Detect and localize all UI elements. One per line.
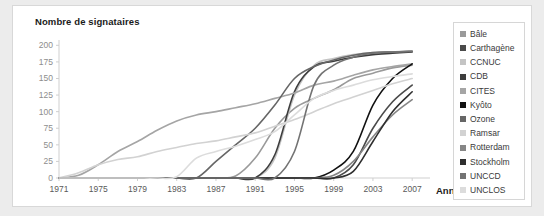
legend-item[interactable]: Rotterdam [460,141,524,155]
y-axis: 0255075100125150175200 [39,40,59,183]
x-tick-label: 1983 [167,184,186,194]
y-tick-label: 25 [44,156,54,166]
x-tick-label: 1979 [128,184,147,194]
x-axis: 1971197519791983198719911995199920032007 [50,178,430,194]
y-tick-label: 200 [39,40,53,50]
y-tick-label: 75 [44,123,54,133]
y-tick-label: 0 [48,173,53,183]
legend-item[interactable]: CDB [460,70,524,84]
legend-swatch-icon [460,45,466,51]
legend-item-label: Rotterdam [470,143,510,152]
legend-item[interactable]: Ozone [460,112,524,126]
y-tick-label: 100 [39,107,53,117]
legend-item-label: CCNUC [470,58,501,67]
x-tick-label: 2007 [403,184,422,194]
legend-item[interactable]: Ramsar [460,126,524,140]
legend-swatch-icon [460,102,466,108]
legend-item[interactable]: CCNUC [460,55,524,69]
x-tick-label: 1995 [285,184,304,194]
legend-swatch-icon [460,74,466,80]
legend-swatch-icon [460,173,466,179]
legend-item[interactable]: Kyôto [460,98,524,112]
y-tick-label: 150 [39,73,53,83]
legend-item-label: CDB [470,72,488,81]
legend-item[interactable]: UNCCD [460,169,524,183]
series-line [59,92,412,179]
y-tick-label: 175 [39,57,53,67]
legend-swatch-icon [460,59,466,65]
legend-swatch-icon [460,116,466,122]
legend-item-label: UNCLOS [470,186,505,195]
legend-item-label: CITES [470,87,495,96]
legend-item-label: Ozone [470,115,495,124]
chart-legend: BâleCarthagèneCCNUCCDBCITESKyôtoOzoneRam… [453,22,525,200]
legend-item-label: Kyôto [470,101,492,110]
legend-item[interactable]: Carthagène [460,41,524,55]
legend-item-label: UNCCD [470,172,501,181]
legend-swatch-icon [460,130,466,136]
data-series-group [59,51,412,180]
legend-item-label: Bâle [470,30,487,39]
legend-item-label: Stockholm [470,158,510,167]
y-tick-label: 125 [39,90,53,100]
x-tick-label: 1975 [89,184,108,194]
legend-item-label: Ramsar [470,129,500,138]
y-tick-label: 50 [44,140,54,150]
legend-swatch-icon [460,187,466,193]
x-tick-label: 1987 [207,184,226,194]
legend-item[interactable]: CITES [460,84,524,98]
x-tick-label: 2003 [363,184,382,194]
chart-card: Nombre de signataires 025507510012515017… [12,5,532,207]
legend-swatch-icon [460,145,466,151]
legend-item-label: Carthagène [470,44,514,53]
x-tick-label: 1999 [324,184,343,194]
legend-swatch-icon [460,88,466,94]
legend-swatch-icon [460,31,466,37]
legend-item[interactable]: UNCLOS [460,183,524,197]
legend-swatch-icon [460,159,466,165]
legend-item[interactable]: Bâle [460,27,524,41]
x-tick-label: 1991 [246,184,265,194]
x-tick-label: 1971 [50,184,69,194]
legend-item[interactable]: Stockholm [460,155,524,169]
